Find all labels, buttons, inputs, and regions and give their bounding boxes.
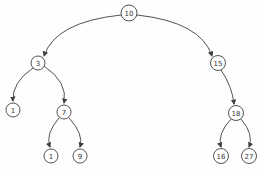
tree-edge-3-to-7 bbox=[44, 66, 65, 103]
tree-node-16: 16 bbox=[214, 149, 229, 164]
tree-node-9: 9 bbox=[73, 149, 87, 163]
tree-node-label: 27 bbox=[245, 153, 254, 161]
tree-edge-18-to-27 bbox=[241, 119, 250, 147]
binary-tree-diagram: 103151718191627 bbox=[0, 0, 259, 171]
tree-edge-3-to-1-left bbox=[13, 68, 33, 101]
tree-node-label: 7 bbox=[62, 109, 66, 117]
tree-node-15: 15 bbox=[211, 56, 226, 71]
tree-edge-10-to-15 bbox=[137, 15, 212, 56]
nodes-layer: 103151718191627 bbox=[6, 5, 257, 164]
tree-edge-10-to-3 bbox=[44, 15, 121, 56]
tree-node-1-left: 1 bbox=[6, 103, 20, 117]
tree-node-label: 9 bbox=[78, 153, 82, 161]
tree-node-1-mid: 1 bbox=[44, 149, 58, 163]
tree-node-label: 16 bbox=[217, 153, 226, 161]
tree-node-label: 1 bbox=[11, 107, 15, 115]
tree-node-3: 3 bbox=[31, 56, 45, 70]
tree-node-18: 18 bbox=[229, 106, 244, 121]
tree-node-label: 1 bbox=[49, 153, 53, 161]
tree-node-label: 10 bbox=[125, 10, 134, 18]
tree-node-7: 7 bbox=[57, 105, 71, 119]
tree-node-27: 27 bbox=[242, 149, 257, 164]
tree-node-label: 15 bbox=[214, 60, 223, 68]
tree-edge-15-to-18 bbox=[221, 70, 234, 104]
tree-node-10: 10 bbox=[121, 5, 137, 21]
tree-node-label: 3 bbox=[36, 60, 40, 68]
tree-canvas: 103151718191627 bbox=[0, 0, 259, 171]
tree-edge-18-to-16 bbox=[220, 119, 231, 147]
tree-edge-7-to-1-mid bbox=[49, 118, 59, 147]
edges-layer bbox=[13, 15, 250, 147]
tree-edge-7-to-9 bbox=[69, 118, 81, 147]
tree-node-label: 18 bbox=[232, 110, 241, 118]
